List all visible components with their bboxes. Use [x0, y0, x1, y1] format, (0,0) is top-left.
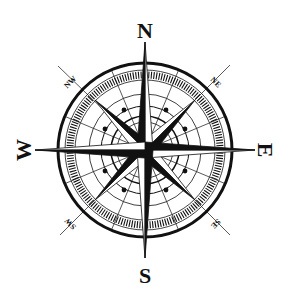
east-point [145, 150, 255, 158]
label-ne: NE [209, 75, 223, 89]
south-point [137, 150, 145, 258]
label-east: E [253, 143, 278, 158]
north-point [145, 42, 153, 150]
label-sw: SW [63, 216, 78, 231]
label-west: W [11, 139, 36, 161]
west-point [35, 142, 145, 150]
label-north: N [137, 18, 153, 43]
label-se: SE [209, 217, 222, 230]
compass-rose: N S E W NE SE SW NW [0, 0, 291, 301]
label-south: S [139, 263, 151, 288]
label-nw: NW [62, 74, 78, 90]
